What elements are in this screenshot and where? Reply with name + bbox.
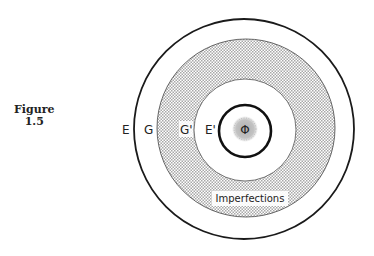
concentric-circles-diagram: E G G' E' Φ Imperfections xyxy=(0,0,374,256)
label-e-prime: E' xyxy=(205,123,216,137)
label-g: G xyxy=(144,123,153,137)
label-g-prime: G' xyxy=(180,123,193,137)
label-e: E xyxy=(122,123,130,137)
imperfections-label: Imperfections xyxy=(216,193,285,204)
label-phi: Φ xyxy=(240,123,249,137)
